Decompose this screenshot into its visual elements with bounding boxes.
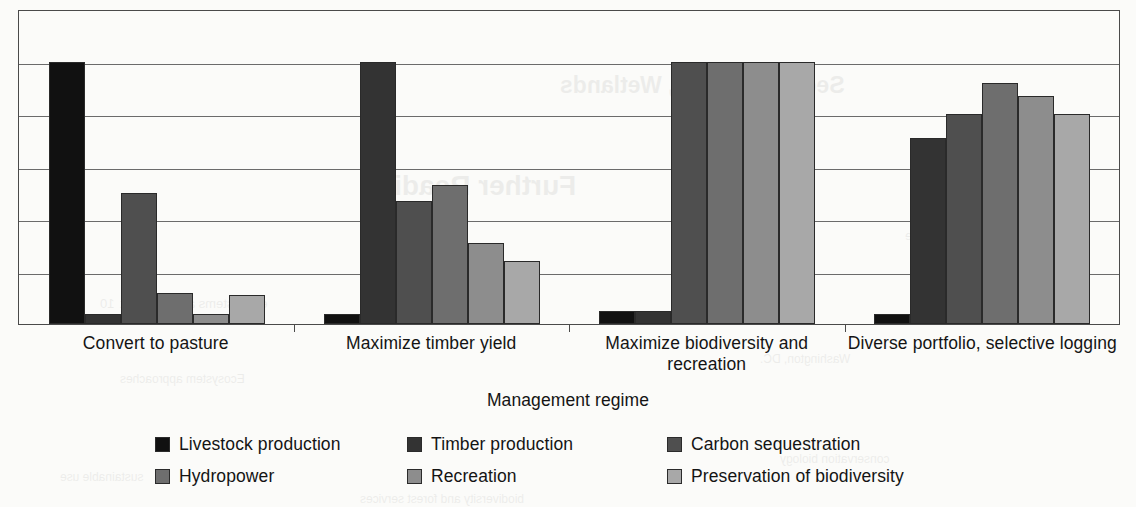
- legend-item: Recreation: [407, 466, 667, 487]
- legend-swatch-icon: [667, 469, 682, 484]
- legend-swatch-icon: [155, 437, 170, 452]
- bar: [121, 193, 157, 324]
- bar: [229, 295, 265, 324]
- bar: [193, 314, 229, 325]
- bar: [779, 62, 815, 325]
- plot-area: [18, 10, 1120, 325]
- bar: [874, 314, 910, 325]
- legend-item: Hydropower: [155, 466, 407, 487]
- bar-group: [569, 11, 844, 324]
- legend-item: Timber production: [407, 434, 667, 455]
- grouped-bar-chart: Convert to pastureMaximize timber yieldM…: [0, 0, 1136, 507]
- legend-item: Livestock production: [155, 434, 407, 455]
- category-label: Diverse portfolio, selective logging: [845, 333, 1121, 374]
- legend-swatch-icon: [155, 469, 170, 484]
- bar: [707, 62, 743, 325]
- legend-label: Timber production: [431, 434, 573, 455]
- bar: [432, 185, 468, 324]
- axis-tick: [569, 325, 570, 332]
- bar: [946, 114, 982, 324]
- bar: [671, 62, 707, 325]
- legend-swatch-icon: [407, 437, 422, 452]
- bar-group: [19, 11, 294, 324]
- bar-group: [844, 11, 1119, 324]
- axis-tick: [294, 325, 295, 332]
- legend-label: Carbon sequestration: [691, 434, 860, 455]
- bar: [599, 311, 635, 324]
- legend-label: Preservation of biodiversity: [691, 466, 904, 487]
- legend-label: Livestock production: [179, 434, 341, 455]
- category-labels: Convert to pastureMaximize timber yieldM…: [18, 333, 1120, 374]
- category-label: Maximize timber yield: [294, 333, 570, 374]
- axis-tick: [845, 325, 846, 332]
- bar: [743, 62, 779, 325]
- bar: [396, 201, 432, 324]
- bar: [85, 314, 121, 325]
- bar: [157, 293, 193, 325]
- category-label: Convert to pasture: [18, 333, 294, 374]
- bar: [635, 311, 671, 324]
- bar-groups: [19, 11, 1119, 324]
- legend-item: Preservation of biodiversity: [667, 466, 967, 487]
- bar: [324, 314, 360, 325]
- legend-label: Recreation: [431, 466, 517, 487]
- bar: [1018, 96, 1054, 324]
- bar: [504, 261, 540, 324]
- legend-label: Hydropower: [179, 466, 274, 487]
- legend-swatch-icon: [667, 437, 682, 452]
- bar: [468, 243, 504, 324]
- bar-group: [294, 11, 569, 324]
- category-label: Maximize biodiversity and recreation: [569, 333, 845, 374]
- bar: [49, 62, 85, 325]
- x-axis-title: Management regime: [0, 390, 1136, 411]
- bar: [982, 83, 1018, 325]
- bar: [1054, 114, 1090, 324]
- legend-swatch-icon: [407, 469, 422, 484]
- bar: [360, 62, 396, 325]
- legend-item: Carbon sequestration: [667, 434, 967, 455]
- chart-legend: Livestock productionTimber productionCar…: [155, 428, 1015, 492]
- bar: [910, 138, 946, 324]
